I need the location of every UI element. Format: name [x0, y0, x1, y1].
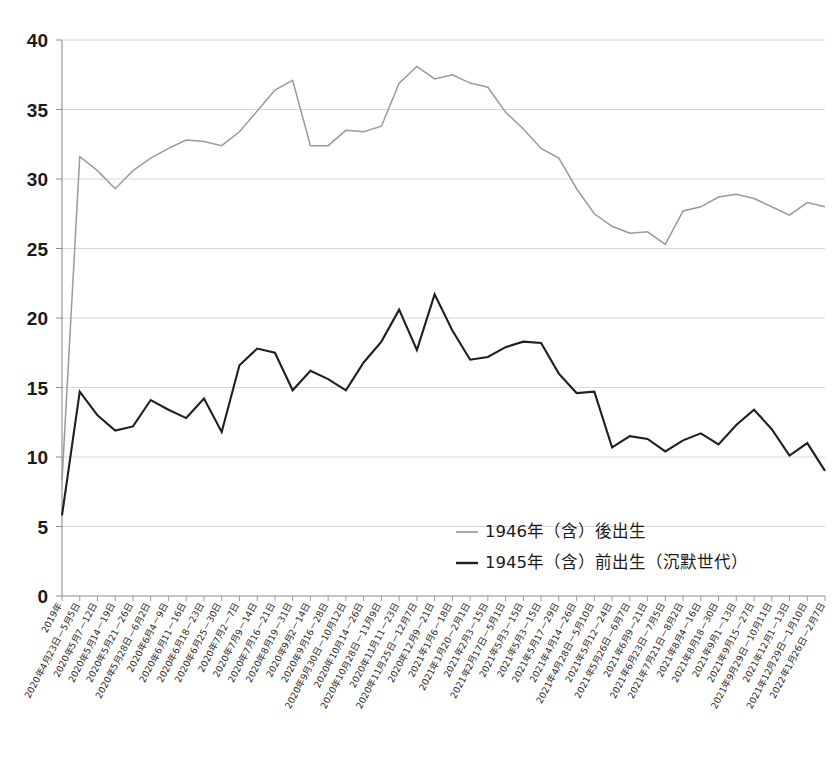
y-tick-labels-group: 0510152025303540 [27, 30, 49, 607]
legend-label-1: 1946年（含）後出生 [485, 522, 646, 541]
x-tick-marks-group [62, 596, 825, 601]
legend-group: 1946年（含）後出生1945年（含）前出生（沉默世代） [456, 522, 748, 572]
gridlines-group [62, 40, 825, 596]
y-tick-label: 25 [27, 239, 49, 260]
y-tick-label: 15 [27, 378, 49, 399]
y-tick-label: 0 [37, 586, 48, 607]
y-tick-marks-group [56, 40, 62, 596]
y-tick-label: 10 [27, 447, 48, 468]
chart-container: 0510152025303540 2019年2020年4月23日－5月5日202… [0, 0, 840, 783]
line-chart: 0510152025303540 2019年2020年4月23日－5月5日202… [0, 0, 840, 783]
legend-label-2: 1945年（含）前出生（沉默世代） [485, 553, 748, 572]
series-paths-group [62, 66, 825, 515]
series-line-1 [62, 66, 825, 480]
y-tick-label: 30 [27, 169, 48, 190]
x-tick-labels-group: 2019年2020年4月23日－5月5日2020年5月7－12日2020年5月1… [22, 601, 827, 711]
y-tick-label: 40 [27, 30, 48, 51]
y-tick-label: 5 [37, 517, 48, 538]
series-line-2 [62, 294, 825, 515]
y-tick-label: 20 [27, 308, 48, 329]
y-tick-label: 35 [27, 100, 49, 121]
